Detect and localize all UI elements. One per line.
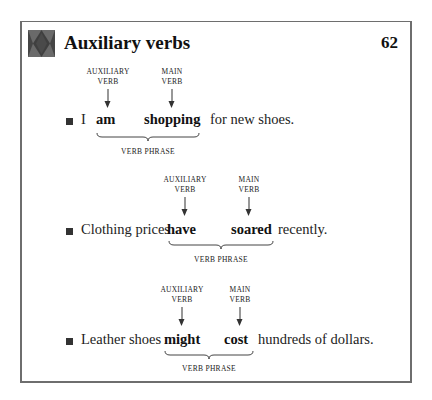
- arrow-down-icon: [182, 307, 183, 320]
- rest-text: hundreds of dollars.: [258, 331, 374, 348]
- arrow-down-icon: [185, 197, 186, 210]
- brace-icon: [168, 240, 274, 250]
- subject-text: Leather shoes: [81, 331, 161, 348]
- auxiliary-verb-label: AUXILIARYVERB: [160, 285, 203, 305]
- arrow-down-icon: [108, 89, 109, 102]
- main-verb-label: MAINVERB: [239, 175, 260, 195]
- auxiliary-verb-label: AUXILIARYVERB: [163, 175, 206, 195]
- auxiliary-verb: am: [96, 111, 115, 128]
- bullet-icon: [66, 228, 73, 235]
- page-title: Auxiliary verbs: [64, 32, 190, 54]
- arrow-down-icon: [240, 307, 241, 320]
- arrow-down-icon: [172, 89, 173, 102]
- verb-phrase-label: VERB PHRASE: [194, 255, 248, 264]
- bullet-icon: [66, 338, 73, 345]
- arrow-down-icon: [249, 197, 250, 210]
- auxiliary-verb: might: [164, 331, 200, 348]
- main-verb: shopping: [144, 111, 200, 128]
- main-verb-label: MAINVERB: [162, 67, 183, 87]
- rest-text: for new shoes.: [210, 111, 294, 128]
- auxiliary-verb: have: [167, 221, 196, 238]
- main-verb-label: MAINVERB: [230, 285, 251, 305]
- verb-phrase-label: VERB PHRASE: [182, 364, 236, 373]
- subject-text: Clothing prices: [81, 221, 170, 238]
- verb-phrase-label: VERB PHRASE: [121, 147, 175, 156]
- brace-icon: [96, 132, 200, 142]
- page-number: 62: [381, 33, 398, 53]
- auxiliary-verb-label: AUXILIARYVERB: [86, 67, 129, 87]
- content-frame: [20, 21, 412, 383]
- diamond-pattern-icon: [28, 30, 55, 57]
- rest-text: recently.: [278, 221, 327, 238]
- bullet-icon: [66, 118, 73, 125]
- subject-text: I: [81, 111, 86, 128]
- main-verb: cost: [224, 331, 248, 348]
- brace-icon: [164, 350, 254, 360]
- main-verb: soared: [231, 221, 272, 238]
